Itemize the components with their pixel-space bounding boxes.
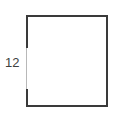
rectangle-left-edge-lower — [26, 89, 28, 107]
rectangle-right-edge — [106, 15, 108, 107]
rectangle-bottom-edge — [26, 105, 108, 107]
rectangle-top-edge — [26, 15, 108, 17]
rectangle-left-edge-upper — [26, 15, 28, 48]
side-length-label: 12 — [5, 55, 19, 71]
rectangle-left-edge-measured-segment — [26, 48, 27, 89]
rectangle-shape — [26, 15, 108, 107]
